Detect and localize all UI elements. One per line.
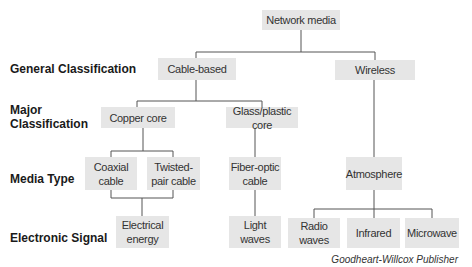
- node-label: energy: [127, 232, 159, 246]
- node-label: waves: [240, 232, 270, 246]
- node-wireless: Wireless: [335, 60, 415, 80]
- node-label: Fiber-optic: [231, 160, 280, 174]
- row-label-major: Major: [10, 103, 42, 117]
- node-label: Twisted-: [154, 160, 193, 174]
- row-label-general-classification: General Classification: [10, 62, 136, 76]
- node-label: Radio: [300, 219, 327, 233]
- node-glass-plastic-core: Glass/plastic core: [226, 107, 298, 128]
- node-label: cable: [99, 174, 124, 188]
- node-label: Cable-based: [167, 62, 226, 76]
- node-light-waves: Lightwaves: [229, 216, 281, 248]
- publisher-credit: Goodheart-Willcox Publisher: [331, 254, 458, 265]
- node-twisted-pair-cable: Twisted-pair cable: [147, 157, 200, 190]
- node-label: Infrared: [356, 226, 392, 240]
- node-copper-core: Copper core: [101, 107, 175, 128]
- row-label-electronic-signal: Electronic Signal: [10, 231, 107, 245]
- node-label: cable: [243, 174, 268, 188]
- node-microwave: Microwave: [405, 218, 459, 248]
- node-fiber-optic-cable: Fiber-opticcable: [229, 157, 281, 190]
- node-electrical-energy: Electricalenergy: [116, 216, 169, 248]
- node-label: Wireless: [355, 63, 395, 77]
- node-label: Network media: [266, 13, 335, 27]
- row-label-media-type: Media Type: [10, 172, 74, 186]
- node-infrared: Infrared: [347, 218, 400, 248]
- node-label: Coaxial: [94, 160, 129, 174]
- node-label: Electrical: [122, 218, 164, 232]
- row-label-classification: Classification: [10, 117, 88, 131]
- node-radio-waves: Radiowaves: [288, 218, 340, 248]
- node-label: Light: [244, 218, 266, 232]
- node-label: Glass/plastic core: [226, 104, 298, 132]
- node-cable-based: Cable-based: [158, 58, 236, 80]
- node-label: Atmosphere: [346, 167, 402, 181]
- node-coaxial-cable: Coaxialcable: [85, 157, 137, 190]
- node-label: pair cable: [151, 174, 196, 188]
- node-label: waves: [299, 233, 329, 247]
- node-atmosphere: Atmosphere: [346, 157, 402, 190]
- node-label: Copper core: [109, 111, 166, 125]
- node-network-media: Network media: [262, 10, 340, 30]
- node-label: Microwave: [407, 226, 457, 240]
